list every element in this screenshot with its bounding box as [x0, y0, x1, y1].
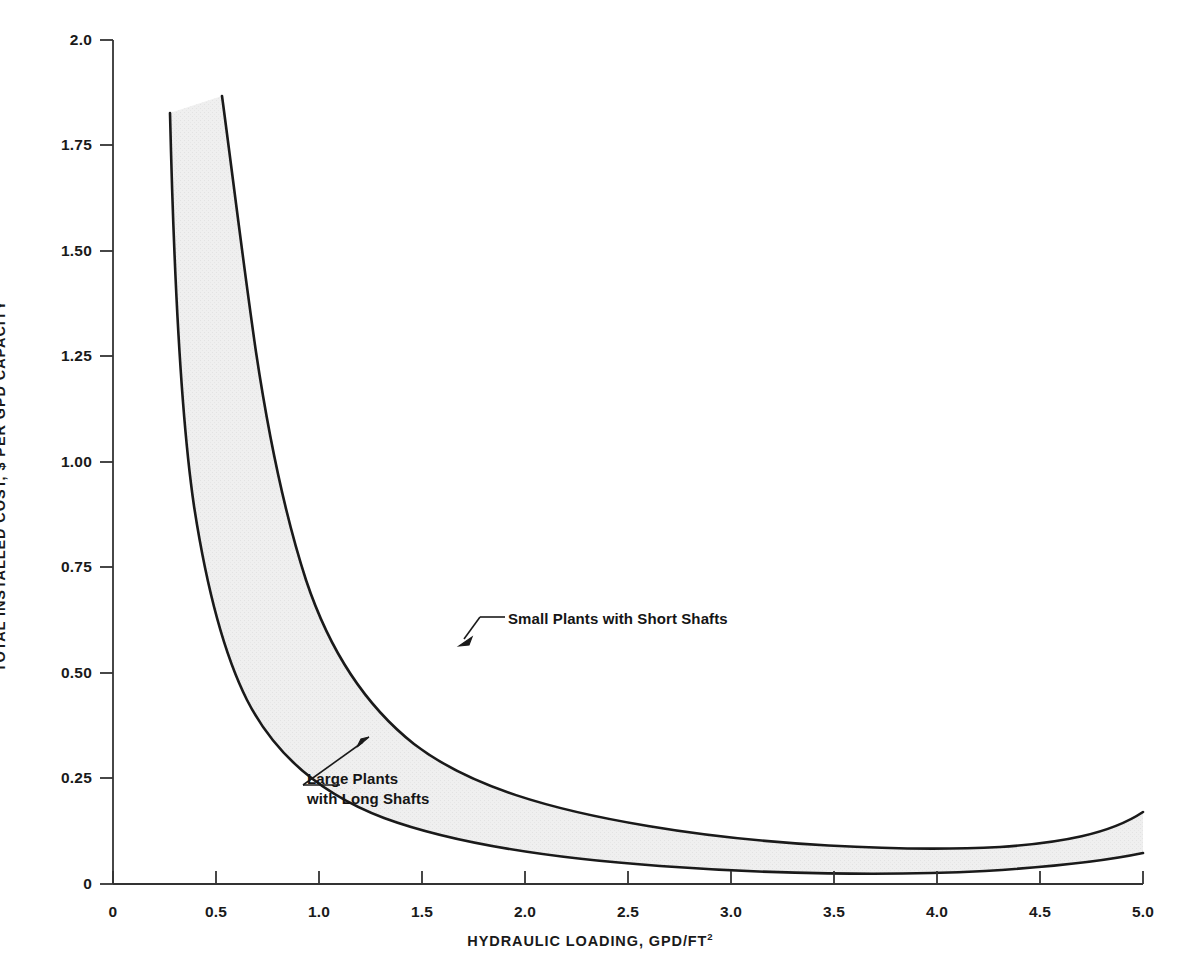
- y-tick-label-1.00: 1.00: [20, 453, 92, 471]
- x-tick-label-0: 0: [109, 903, 118, 921]
- annotation-arrowhead-small-plants: [459, 637, 472, 646]
- x-axis-ticks: [113, 871, 1143, 884]
- cost-band-area: [170, 96, 1143, 874]
- y-axis-ticks: [100, 40, 113, 884]
- x-tick-label-3.0: 3.0: [720, 903, 742, 921]
- annotation-large-plants-line1: Large Plants: [307, 769, 429, 789]
- x-tick-label-2.5: 2.5: [617, 903, 639, 921]
- y-tick-label-0.75: 0.75: [20, 558, 92, 576]
- annotation-leader-small-plants: [464, 617, 505, 639]
- annotation-small-plants-line1: Small Plants with Short Shafts: [508, 609, 728, 629]
- y-tick-label-1.75: 1.75: [20, 136, 92, 154]
- x-tick-label-5.0: 5.0: [1132, 903, 1154, 921]
- annotation-large-plants: Large Plants with Long Shafts: [307, 769, 429, 809]
- x-tick-label-4.5: 4.5: [1029, 903, 1051, 921]
- y-tick-label-2.0: 2.0: [20, 31, 92, 49]
- x-tick-label-1.5: 1.5: [411, 903, 433, 921]
- y-tick-label-0: 0: [20, 875, 92, 893]
- y-tick-label-1.25: 1.25: [20, 347, 92, 365]
- x-tick-label-4.0: 4.0: [926, 903, 948, 921]
- x-tick-label-3.5: 3.5: [823, 903, 845, 921]
- chart-plot-area: [0, 0, 1181, 979]
- y-tick-label-1.50: 1.50: [20, 242, 92, 260]
- x-axis-title-superscript: 2: [707, 931, 712, 942]
- y-tick-label-0.50: 0.50: [20, 664, 92, 682]
- y-axis-title: TOTAL INSTALLED COST, $ PER GPD CAPACITY: [0, 300, 8, 696]
- x-axis-title-text: HYDRAULIC LOADING, GPD/FT: [467, 933, 707, 949]
- y-tick-label-0.25: 0.25: [20, 769, 92, 787]
- x-tick-label-0.5: 0.5: [205, 903, 227, 921]
- figure-container: 2.0 1.75 1.50 1.25 1.00 0.75 0.50 0.25 0…: [0, 0, 1181, 979]
- x-tick-label-1.0: 1.0: [308, 903, 330, 921]
- annotation-small-plants: Small Plants with Short Shafts: [508, 609, 728, 629]
- annotation-large-plants-line2: with Long Shafts: [307, 789, 429, 809]
- x-axis-title: HYDRAULIC LOADING, GPD/FT2: [467, 931, 712, 949]
- x-tick-label-2.0: 2.0: [514, 903, 536, 921]
